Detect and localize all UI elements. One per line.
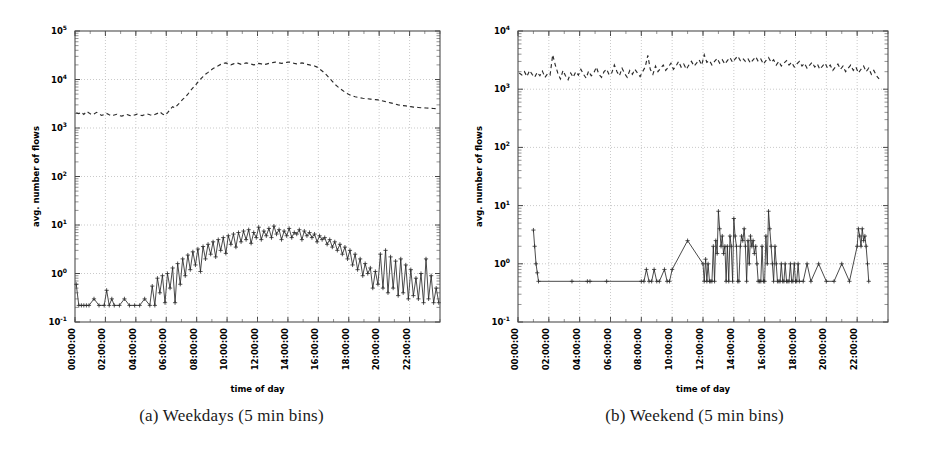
x-tick-label: 14:00:00 [726,328,736,370]
x-tick-label: 14:00:00 [280,328,290,370]
x-tick-label: 00:00:00 [510,328,520,370]
y-tick-label: 105 [51,24,67,36]
x-tick-label: 04:00:00 [572,328,582,370]
y-tick-label: 101 [51,218,67,230]
caption-row: (a) Weekdays (5 min bins) (b) Weekend (5… [0,398,927,457]
x-tick-label: 20:00:00 [371,328,381,370]
plot-frame [518,31,888,322]
x-tick-label: 22:00:00 [849,328,859,370]
series-total-flows [76,62,436,116]
y-axis-title: avg. number of flows [31,126,41,227]
x-tick-label: 08:00:00 [633,328,643,370]
panel-weekdays: 10510410310210110010-100:00:0002:00:0004… [0,0,463,400]
x-tick-label: 12:00:00 [695,328,705,370]
x-tick-label: 06:00:00 [603,328,613,370]
gridlines [75,31,440,322]
x-tick-label: 22:00:00 [402,328,412,370]
y-tick-label: 10-1 [491,315,510,327]
caption-weekend: (b) Weekend (5 min bins) [463,406,926,426]
y-tick-label: 103 [494,82,510,94]
x-tick-label: 04:00:00 [128,328,138,370]
y-tick-label: 100 [51,267,67,279]
y-tick-label: 102 [494,140,510,152]
x-tick-label: 16:00:00 [310,328,320,370]
x-tick-label: 10:00:00 [219,328,229,370]
series-suspicious-flows [531,209,871,283]
y-tick-label: 102 [51,170,67,182]
series-total-flows [519,55,879,80]
y-tick-label: 100 [494,257,510,269]
chart-weekdays: 10510410310210110010-100:00:0002:00:0004… [0,0,463,400]
y-tick-label: 104 [494,24,510,36]
x-tick-label: 06:00:00 [158,328,168,370]
figure-container: 10510410310210110010-100:00:0002:00:0004… [0,0,927,457]
y-axis-title: avg. number of flows [474,126,484,227]
x-tick-label: 18:00:00 [788,328,798,370]
x-tick-label: 20:00:00 [818,328,828,370]
caption-weekdays: (a) Weekdays (5 min bins) [0,406,463,426]
y-tick-label: 104 [51,73,67,85]
chart-weekend: 10410310210110010-100:00:0002:00:0004:00… [463,0,926,400]
x-tick-label: 18:00:00 [341,328,351,370]
panel-weekend: 10410310210110010-100:00:0002:00:0004:00… [463,0,926,400]
x-tick-label: 02:00:00 [97,328,107,370]
x-tick-label: 10:00:00 [664,328,674,370]
x-tick-label: 00:00:00 [67,328,77,370]
x-tick-label: 12:00:00 [250,328,260,370]
x-tick-label: 08:00:00 [189,328,199,370]
x-tick-label: 16:00:00 [757,328,767,370]
y-tick-label: 103 [51,121,67,133]
x-axis-title: time of day [230,384,285,394]
y-tick-label: 101 [494,199,510,211]
x-tick-label: 02:00:00 [541,328,551,370]
y-tick-label: 10-1 [48,315,67,327]
gridlines [518,31,888,322]
x-axis-title: time of day [676,384,731,394]
